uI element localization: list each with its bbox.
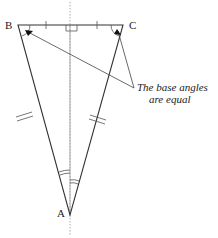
leader-line-to-b: [28, 32, 134, 88]
arrowhead-c-icon: [114, 29, 121, 35]
leader-line-to-c: [118, 31, 134, 88]
vertex-label-c: C: [129, 19, 136, 31]
annotation-line-2: are equal: [149, 93, 190, 105]
triangle-abc: [18, 25, 123, 215]
vertex-label-b: B: [5, 19, 12, 31]
apex-arc-right-2: [70, 183, 78, 184]
annotation-line-1: The base angles: [137, 81, 208, 93]
right-angle-marker: [66, 25, 77, 31]
double-tick-ab-2: [17, 116, 33, 121]
apex-arc-left-2: [60, 173, 70, 175]
apex-arc-left-1: [59, 170, 70, 172]
apex-arc-right-1: [70, 180, 79, 181]
vertex-label-a: A: [57, 207, 65, 219]
arrowhead-b-icon: [25, 30, 33, 36]
double-tick-ab-1: [16, 112, 32, 117]
isosceles-triangle-diagram: B C A The base angles are equal: [0, 0, 218, 238]
